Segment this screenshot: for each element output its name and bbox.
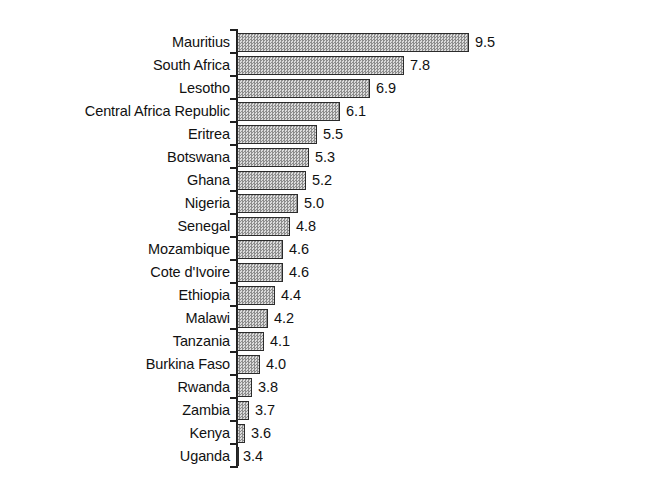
bar <box>237 194 298 213</box>
bar-row: Malawi4.2 <box>0 307 658 330</box>
bar <box>237 355 260 374</box>
bar-row: Rwanda3.8 <box>0 376 658 399</box>
bar <box>237 263 283 282</box>
axis-tick <box>230 466 237 468</box>
bar <box>237 240 283 259</box>
bar-row: Senegal4.8 <box>0 215 658 238</box>
category-label: Botswana <box>167 146 230 169</box>
bar-row: Ghana5.2 <box>0 169 658 192</box>
bar-row: Kenya3.6 <box>0 422 658 445</box>
bar-value-label: 4.6 <box>289 238 309 261</box>
bar-row: Zambia3.7 <box>0 399 658 422</box>
bar-value-label: 4.0 <box>266 353 286 376</box>
category-label: Senegal <box>177 215 230 238</box>
bar-row: Mauritius9.5 <box>0 31 658 54</box>
bar-row: Nigeria5.0 <box>0 192 658 215</box>
bar <box>237 125 317 144</box>
bar-value-label: 3.4 <box>243 445 263 468</box>
axis-tick <box>230 167 237 169</box>
bar-row: Uganda3.4 <box>0 445 658 468</box>
category-label: Lesotho <box>179 77 230 100</box>
axis-tick <box>230 420 237 422</box>
plot-area: Mauritius9.5South Africa7.8Lesotho6.9Cen… <box>0 0 658 484</box>
bar-value-label: 3.8 <box>258 376 278 399</box>
axis-tick <box>230 236 237 238</box>
category-label: Tanzania <box>173 330 230 353</box>
category-label: Burkina Faso <box>146 353 230 376</box>
bar-row: Lesotho6.9 <box>0 77 658 100</box>
category-label: Rwanda <box>177 376 230 399</box>
category-label: Ethiopia <box>178 284 230 307</box>
bar <box>237 401 249 420</box>
bar <box>237 378 252 397</box>
axis-tick <box>230 443 237 445</box>
bar-row: South Africa7.8 <box>0 54 658 77</box>
category-label: Central Africa Republic <box>85 100 230 123</box>
bar <box>237 286 275 305</box>
bar-value-label: 3.6 <box>251 422 271 445</box>
bar <box>237 102 340 121</box>
category-label: Uganda <box>180 445 230 468</box>
axis-tick <box>230 29 237 31</box>
category-label: Zambia <box>182 399 230 422</box>
bar-row: Burkina Faso4.0 <box>0 353 658 376</box>
axis-tick <box>230 351 237 353</box>
bar-row: Mozambique4.6 <box>0 238 658 261</box>
axis-tick <box>230 190 237 192</box>
bar-row: Tanzania4.1 <box>0 330 658 353</box>
bar <box>237 447 239 466</box>
axis-tick <box>230 282 237 284</box>
axis-tick <box>230 328 237 330</box>
category-label: Ghana <box>187 169 230 192</box>
bar <box>237 217 290 236</box>
category-label: Kenya <box>189 422 230 445</box>
bar-row: Botswana5.3 <box>0 146 658 169</box>
bar <box>237 171 306 190</box>
bar-value-label: 4.1 <box>270 330 290 353</box>
axis-tick <box>230 259 237 261</box>
bar-value-label: 4.2 <box>274 307 294 330</box>
axis-tick <box>230 121 237 123</box>
axis-tick <box>230 397 237 399</box>
bar-value-label: 5.2 <box>312 169 332 192</box>
bar-value-label: 6.9 <box>376 77 396 100</box>
category-label: Malawi <box>185 307 230 330</box>
category-label: Nigeria <box>185 192 230 215</box>
bar-value-label: 5.0 <box>304 192 324 215</box>
axis-tick <box>230 374 237 376</box>
axis-tick <box>230 98 237 100</box>
bar-value-label: 3.7 <box>255 399 275 422</box>
bar-row: Cote d'Ivoire4.6 <box>0 261 658 284</box>
bar-value-label: 6.1 <box>346 100 366 123</box>
bar-value-label: 4.4 <box>281 284 301 307</box>
bar <box>237 33 469 52</box>
bar <box>237 309 268 328</box>
category-label: Mozambique <box>148 238 230 261</box>
bar-chart: Mauritius9.5South Africa7.8Lesotho6.9Cen… <box>0 0 658 484</box>
bar <box>237 148 309 167</box>
bar-value-label: 9.5 <box>475 31 495 54</box>
bar-value-label: 5.5 <box>323 123 343 146</box>
axis-tick <box>230 144 237 146</box>
bar-row: Ethiopia4.4 <box>0 284 658 307</box>
axis-tick <box>230 213 237 215</box>
axis-tick <box>230 75 237 77</box>
bar <box>237 424 245 443</box>
axis-tick <box>230 52 237 54</box>
bar-row: Central Africa Republic6.1 <box>0 100 658 123</box>
bar-value-label: 4.6 <box>289 261 309 284</box>
bar-value-label: 7.8 <box>410 54 430 77</box>
bar <box>237 79 370 98</box>
axis-tick <box>230 305 237 307</box>
bar-row: Eritrea5.5 <box>0 123 658 146</box>
bar <box>237 56 404 75</box>
category-label: South Africa <box>153 54 230 77</box>
category-label: Mauritius <box>172 31 230 54</box>
category-label: Cote d'Ivoire <box>150 261 230 284</box>
category-label: Eritrea <box>188 123 230 146</box>
bar-value-label: 4.8 <box>296 215 316 238</box>
bar-value-label: 5.3 <box>315 146 335 169</box>
bar <box>237 332 264 351</box>
